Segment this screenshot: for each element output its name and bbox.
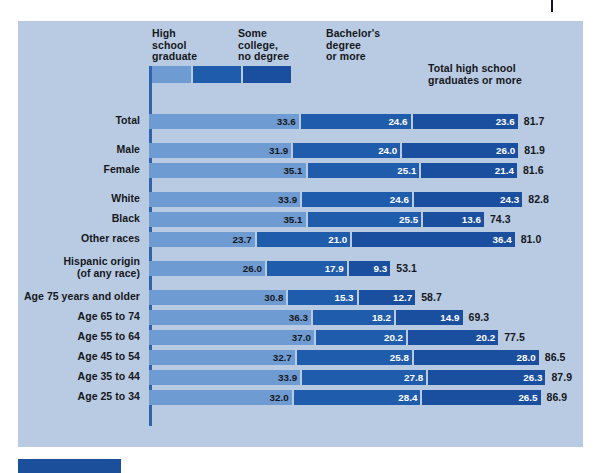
segment-value: 14.9 [440, 311, 459, 324]
bar-segment-2: 25.5 [308, 212, 422, 227]
bar-segment-2: 25.1 [308, 163, 420, 178]
segment-value: 24.6 [390, 193, 409, 206]
chart-row: Age 55 to 6437.020.220.277.5 [18, 330, 583, 345]
bar-segment-2: 20.2 [316, 330, 406, 345]
stacked-bar: 23.721.036.4 [149, 232, 515, 247]
row-label: Black [0, 213, 140, 225]
bar-segment-2: 21.0 [257, 232, 351, 247]
segment-value: 25.5 [399, 213, 418, 226]
segment-value: 24.3 [500, 193, 519, 206]
bar-segment-1: 35.1 [149, 212, 306, 227]
segment-value: 20.2 [476, 331, 495, 344]
segment-value: 28.4 [398, 391, 417, 404]
chart-row: Male31.924.026.081.9 [18, 143, 583, 158]
legend-label-some-college: Some college, no degree [238, 28, 289, 63]
segment-value: 24.0 [378, 144, 397, 157]
bar-segment-3: 14.9 [396, 310, 462, 325]
segment-value: 28.0 [517, 351, 536, 364]
bar-segment-1: 35.1 [149, 163, 306, 178]
bar-segment-2: 25.8 [297, 350, 412, 365]
row-label: Age 75 years and older [0, 291, 140, 303]
row-total-value: 86.9 [547, 391, 568, 404]
stacked-bar: 26.017.99.3 [149, 261, 390, 276]
stacked-bar: 35.125.513.6 [149, 212, 484, 227]
bar-segment-2: 28.4 [294, 390, 421, 405]
bar-segment-1: 37.0 [149, 330, 314, 345]
segment-value: 35.1 [283, 213, 302, 226]
stacked-bar: 33.624.623.6 [149, 114, 518, 129]
segment-value: 12.7 [393, 291, 412, 304]
chart-panel: High school graduate Some college, no de… [18, 21, 583, 447]
segment-value: 17.9 [325, 262, 344, 275]
segment-value: 36.4 [493, 233, 512, 246]
row-total-value: 81.7 [524, 115, 545, 128]
segment-value: 33.9 [278, 371, 297, 384]
row-label: Male [0, 144, 140, 156]
chart-row: Age 45 to 5432.725.828.086.5 [18, 350, 583, 365]
chart-row: Age 75 years and older30.815.312.758.7 [18, 290, 583, 305]
legend-swatch-1 [149, 66, 191, 83]
bar-segment-2: 24.6 [302, 192, 412, 207]
bar-segment-1: 36.3 [149, 310, 311, 325]
legend-label-bachelors-degree: Bachelor's degree or more [326, 28, 380, 63]
segment-value: 23.6 [496, 115, 515, 128]
segment-value: 23.7 [233, 233, 252, 246]
bar-segment-3: 24.3 [414, 192, 522, 207]
stacked-bar: 31.924.026.0 [149, 143, 518, 158]
bar-segment-1: 33.6 [149, 114, 299, 129]
chart-row: Other races23.721.036.481.0 [18, 232, 583, 247]
stacked-bar: 33.927.826.3 [149, 370, 545, 385]
legend-sample-bar [149, 66, 291, 83]
chart-row: Age 65 to 7436.318.214.969.3 [18, 310, 583, 325]
segment-value: 26.3 [523, 371, 542, 384]
stacked-bar: 33.924.624.3 [149, 192, 522, 207]
segment-value: 35.1 [283, 164, 302, 177]
segment-value: 24.6 [388, 115, 407, 128]
bottom-accent-block [18, 459, 121, 473]
bar-segment-1: 26.0 [149, 261, 265, 276]
bar-segment-1: 32.7 [149, 350, 295, 365]
row-total-value: 58.7 [421, 291, 442, 304]
stacked-bar: 36.318.214.9 [149, 310, 463, 325]
row-total-value: 69.3 [469, 311, 490, 324]
segment-value: 13.6 [462, 213, 481, 226]
stacked-bar: 32.725.828.0 [149, 350, 539, 365]
chart-row: Hispanic origin (of any race)26.017.99.3… [18, 261, 583, 276]
segment-value: 9.3 [374, 262, 388, 275]
legend-label-total-high-school-graduates: Total high school graduates or more [428, 63, 522, 87]
row-total-value: 74.3 [490, 213, 511, 226]
row-label: Female [0, 164, 140, 176]
segment-value: 26.5 [518, 391, 537, 404]
segment-value: 18.2 [372, 311, 391, 324]
page-corner-tick [551, 0, 553, 12]
bar-segment-3: 21.4 [421, 163, 516, 178]
segment-value: 20.2 [384, 331, 403, 344]
legend-swatch-3 [243, 66, 291, 83]
chart-row: Female35.125.121.481.6 [18, 163, 583, 178]
row-total-value: 86.5 [545, 351, 566, 364]
stacked-bar: 30.815.312.7 [149, 290, 415, 305]
segment-value: 32.0 [270, 391, 289, 404]
segment-value: 33.6 [277, 115, 296, 128]
bar-segment-2: 24.6 [301, 114, 411, 129]
segment-value: 27.8 [404, 371, 423, 384]
row-total-value: 81.0 [521, 233, 542, 246]
chart-row: White33.924.624.382.8 [18, 192, 583, 207]
row-label: Age 25 to 34 [0, 391, 140, 403]
row-label: White [0, 193, 140, 205]
chart-row: Black35.125.513.674.3 [18, 212, 583, 227]
bar-segment-3: 12.7 [359, 290, 416, 305]
chart-row: Age 25 to 3432.028.426.586.9 [18, 390, 583, 405]
row-total-value: 82.8 [528, 193, 549, 206]
bar-segment-1: 30.8 [149, 290, 286, 305]
bar-segment-3: 36.4 [352, 232, 514, 247]
segment-value: 26.0 [496, 144, 515, 157]
segment-value: 26.0 [243, 262, 262, 275]
chart-row: Age 35 to 4433.927.826.387.9 [18, 370, 583, 385]
segment-value: 32.7 [273, 351, 292, 364]
bar-segment-1: 33.9 [149, 192, 300, 207]
chart-legend: High school graduate Some college, no de… [18, 21, 583, 93]
row-label: Total [0, 115, 140, 127]
row-label: Age 55 to 64 [0, 331, 140, 343]
bar-segment-2: 27.8 [302, 370, 426, 385]
